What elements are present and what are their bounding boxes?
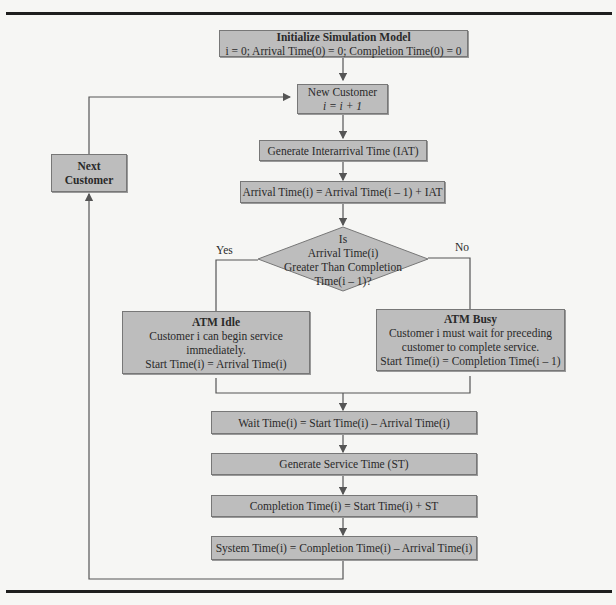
generate-iat-text: Generate Interarrival Time (IAT)	[267, 144, 418, 158]
arrival-time-text: Arrival Time(i) = Arrival Time(i – 1) + …	[242, 185, 442, 199]
atm-idle-line1: Customer i can begin service	[149, 329, 283, 343]
decision-text: Is Arrival Time(i) Greater Than Completi…	[270, 232, 416, 288]
generate-st-text: Generate Service Time (ST)	[279, 457, 408, 471]
completion-time-text: Completion Time(i) = Start Time(i) + ST	[250, 499, 439, 513]
system-time-box: System Time(i) = Completion Time(i) – Ar…	[211, 536, 477, 560]
completion-time-box: Completion Time(i) = Start Time(i) + ST	[211, 495, 477, 517]
wait-time-text: Wait Time(i) = Start Time(i) – Arrival T…	[238, 416, 450, 430]
atm-idle-line3: Start Time(i) = Arrival Time(i)	[145, 357, 286, 371]
next-customer-line1: Next	[78, 159, 101, 173]
yes-label: Yes	[216, 244, 233, 256]
atm-idle-line2: immediately.	[186, 343, 246, 357]
decision-line2: Arrival Time(i)	[270, 246, 416, 260]
init-title: Initialize Simulation Model	[276, 30, 410, 44]
atm-busy-box: ATM Busy Customer i must wait for preced…	[376, 309, 565, 371]
system-time-text: System Time(i) = Completion Time(i) – Ar…	[216, 541, 473, 555]
wait-time-box: Wait Time(i) = Start Time(i) – Arrival T…	[211, 411, 477, 434]
next-customer-line2: Customer	[65, 173, 114, 187]
next-customer-box: Next Customer	[51, 154, 127, 192]
atm-busy-line1: Customer i must wait for preceding	[389, 326, 552, 340]
arrival-time-box: Arrival Time(i) = Arrival Time(i – 1) + …	[240, 181, 445, 203]
new-customer-title: New Customer	[308, 85, 377, 99]
decision-line3: Greater Than Completion	[270, 260, 416, 274]
atm-idle-title: ATM Idle	[192, 315, 240, 329]
generate-iat-box: Generate Interarrival Time (IAT)	[259, 140, 427, 161]
decision-line1: Is	[270, 232, 416, 246]
atm-busy-line2: customer to complete service.	[402, 340, 539, 354]
atm-busy-line3: Start Time(i) = Completion Time(i – 1)	[380, 354, 560, 368]
new-customer-box: New Customer i = i + 1	[297, 84, 388, 114]
init-text: i = 0; Arrival Time(0) = 0; Completion T…	[225, 44, 461, 58]
decision-line4: Time(i – 1)?	[270, 274, 416, 288]
atm-idle-box: ATM Idle Customer i can begin service im…	[122, 311, 310, 374]
init-box: Initialize Simulation Model i = 0; Arriv…	[219, 30, 468, 57]
atm-busy-title: ATM Busy	[444, 312, 497, 326]
no-label: No	[455, 241, 469, 253]
generate-st-box: Generate Service Time (ST)	[211, 453, 477, 475]
new-customer-text: i = i + 1	[323, 99, 362, 113]
